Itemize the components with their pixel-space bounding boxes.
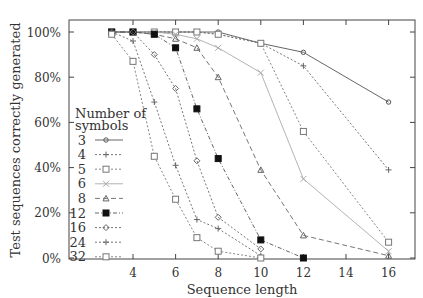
y-axis-label: Test sequences correctly generated (8, 23, 23, 258)
y-tick-label: 80% (34, 71, 61, 85)
legend-item-24: 24 (69, 235, 123, 250)
legend-item-3: 3 (78, 133, 123, 148)
svg-text:24: 24 (69, 235, 86, 250)
series-8 (109, 29, 392, 258)
data-series (109, 29, 392, 261)
svg-text:16: 16 (69, 220, 86, 235)
legend-item-5: 5 (78, 162, 123, 177)
x-tick-label: 8 (214, 266, 222, 280)
legend: Number ofsymbols3456812162432 (69, 106, 147, 264)
y-tick-label: 0% (42, 252, 61, 266)
y-tick-label: 20% (34, 206, 61, 220)
series-3 (110, 30, 391, 104)
svg-text:3: 3 (78, 133, 86, 148)
series-32 (109, 31, 264, 261)
svg-text:8: 8 (78, 191, 86, 206)
legend-item-12: 12 (69, 206, 123, 221)
series-5 (109, 29, 392, 245)
line-chart: 0%20%40%60%80%100% 46810121416 Number of… (0, 0, 423, 298)
x-tick-label: 14 (338, 266, 354, 280)
x-tick-label: 12 (296, 266, 311, 280)
legend-item-32: 32 (69, 249, 123, 264)
x-tick-label: 16 (381, 266, 396, 280)
x-tick-label: 6 (172, 266, 180, 280)
y-tick-label: 100% (27, 26, 61, 40)
svg-text:6: 6 (78, 176, 86, 191)
svg-text:12: 12 (69, 206, 86, 221)
plot-frame (69, 20, 415, 259)
legend-item-16: 16 (69, 220, 123, 235)
legend-title: symbols (75, 118, 128, 133)
series-4 (109, 29, 392, 173)
legend-item-4: 4 (78, 147, 123, 162)
y-tick-label: 60% (34, 116, 61, 130)
legend-item-8: 8 (78, 191, 123, 206)
x-tick-label: 4 (129, 266, 137, 280)
x-tick-label: 10 (253, 266, 268, 280)
series-12 (109, 29, 307, 261)
y-tick-label: 40% (34, 161, 61, 175)
x-axis-label: Sequence length (187, 282, 298, 297)
svg-text:4: 4 (78, 147, 86, 162)
svg-text:5: 5 (78, 162, 86, 177)
svg-text:32: 32 (69, 249, 86, 264)
legend-item-6: 6 (78, 176, 123, 191)
